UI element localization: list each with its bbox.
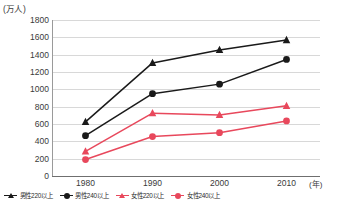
series-line bbox=[86, 121, 287, 160]
chart-container: (万人) 020040060080010001200140016001800 1… bbox=[0, 0, 340, 200]
legend-item-4[interactable]: 女性240以上 bbox=[171, 191, 220, 200]
data-point-circle bbox=[149, 90, 156, 97]
data-point-circle bbox=[82, 156, 89, 163]
series-4 bbox=[82, 118, 290, 163]
legend-label: 男性220以上 bbox=[20, 191, 53, 200]
legend-circle-icon bbox=[60, 193, 73, 199]
series-3 bbox=[82, 102, 291, 155]
data-point-circle bbox=[82, 132, 89, 139]
series-line bbox=[86, 106, 287, 152]
legend-label: 女性240以上 bbox=[187, 191, 220, 200]
data-point-circle bbox=[149, 133, 156, 140]
legend-item-3[interactable]: 女性220以上 bbox=[116, 191, 165, 200]
legend-triangle-icon bbox=[116, 193, 129, 199]
data-point-circle bbox=[216, 129, 223, 136]
legend-label: 女性220以上 bbox=[131, 191, 164, 200]
legend-item-2[interactable]: 男性240以上 bbox=[60, 191, 109, 200]
series-line bbox=[86, 59, 287, 135]
legend-label: 男性240以上 bbox=[75, 191, 108, 200]
data-point-triangle bbox=[283, 36, 291, 43]
series-1 bbox=[82, 36, 291, 125]
legend-triangle-icon bbox=[4, 193, 17, 199]
data-series-layer bbox=[0, 0, 340, 200]
data-point-triangle bbox=[283, 102, 291, 109]
chart-legend: 男性220以上男性240以上女性220以上女性240以上 bbox=[4, 191, 340, 200]
data-point-circle bbox=[283, 118, 290, 125]
data-point-triangle bbox=[82, 147, 90, 154]
data-point-circle bbox=[283, 56, 290, 63]
legend-item-1[interactable]: 男性220以上 bbox=[4, 191, 53, 200]
data-point-circle bbox=[216, 81, 223, 88]
legend-circle-icon bbox=[171, 193, 184, 199]
